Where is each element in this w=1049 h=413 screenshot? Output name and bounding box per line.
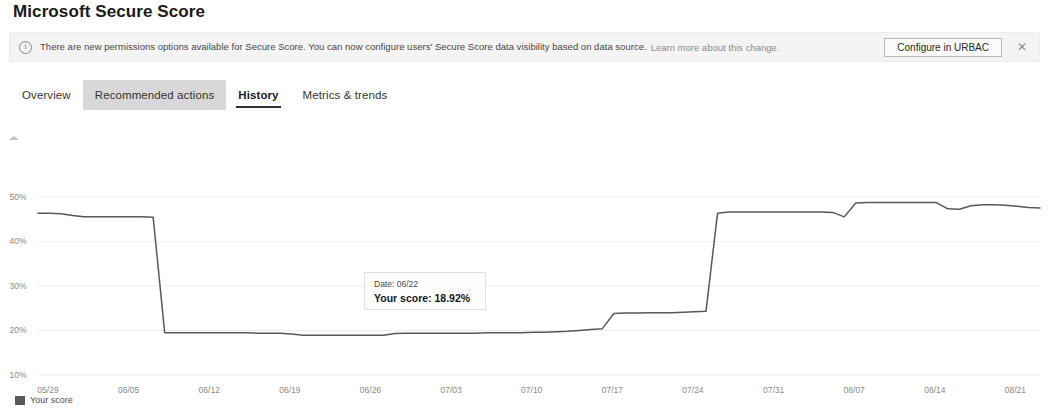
- chart-gridlines: [38, 197, 1040, 375]
- score-line-path: [38, 203, 1040, 336]
- notification-message-bar: There are new permissions options availa…: [9, 32, 1040, 62]
- chart-y-axis-labels: 50%40%30%20%10%: [9, 192, 26, 380]
- y-axis-tick-label: 10%: [9, 370, 26, 380]
- y-axis-tick-label: 50%: [9, 192, 26, 202]
- page-title: Microsoft Secure Score: [13, 2, 205, 22]
- x-axis-tick-label: 07/10: [521, 385, 543, 395]
- x-axis-tick-label: 08/14: [924, 385, 946, 395]
- x-axis-tick-label: 07/03: [440, 385, 462, 395]
- tab-history[interactable]: History: [226, 80, 290, 110]
- tab-bar: Overview Recommended actions History Met…: [10, 80, 399, 110]
- x-axis-tick-label: 06/05: [118, 385, 140, 395]
- x-axis-tick-label: 06/12: [199, 385, 221, 395]
- tab-metrics-and-trends[interactable]: Metrics & trends: [291, 80, 400, 110]
- tooltip-date: Date: 06/22: [374, 279, 476, 290]
- legend-color-swatch: [15, 396, 25, 405]
- x-axis-tick-label: 06/19: [279, 385, 301, 395]
- chart-legend: Your score: [15, 395, 73, 405]
- x-axis-tick-label: 08/07: [844, 385, 866, 395]
- legend-label: Your score: [30, 395, 73, 405]
- close-icon[interactable]: ✕: [1014, 39, 1030, 55]
- tab-overview[interactable]: Overview: [10, 80, 83, 110]
- x-axis-tick-label: 07/17: [602, 385, 624, 395]
- y-axis-tick-label: 20%: [9, 325, 26, 335]
- chart-canvas: 50%40%30%20%10% 05/2906/0506/1206/1906/2…: [0, 125, 1049, 413]
- chart-tooltip: Date: 06/22 Your score: 18.92%: [364, 272, 486, 310]
- y-axis-tick-label: 30%: [9, 281, 26, 291]
- x-axis-tick-label: 05/29: [37, 385, 59, 395]
- secure-score-history-chart: 50%40%30%20%10% 05/2906/0506/1206/1906/2…: [0, 125, 1049, 413]
- y-axis-tick-label: 40%: [9, 236, 26, 246]
- tab-recommended-actions[interactable]: Recommended actions: [83, 80, 227, 110]
- info-icon: [19, 41, 32, 54]
- x-axis-tick-label: 07/24: [682, 385, 704, 395]
- tooltip-score: Your score: 18.92%: [374, 291, 476, 305]
- x-axis-tick-label: 07/31: [763, 385, 785, 395]
- chart-x-axis-labels: 05/2906/0506/1206/1906/2607/0307/1007/17…: [37, 385, 1026, 395]
- notification-message-text: There are new permissions options availa…: [40, 41, 647, 53]
- x-axis-tick-label: 06/26: [360, 385, 382, 395]
- x-axis-tick-label: 08/21: [1005, 385, 1027, 395]
- learn-more-link[interactable]: Learn more about this change.: [651, 42, 780, 53]
- configure-in-urbac-button[interactable]: Configure in URBAC: [884, 38, 1002, 57]
